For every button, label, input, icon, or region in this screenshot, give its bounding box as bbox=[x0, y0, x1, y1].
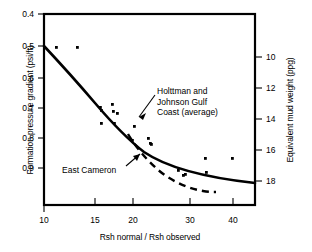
plot-frame bbox=[44, 14, 255, 205]
chart-figure: Formation pressure gradient (psi/ft) Equ… bbox=[0, 0, 312, 252]
data-point bbox=[99, 106, 102, 109]
annotation-holttman: Holttman and Johnson Gulf Coast (average… bbox=[157, 86, 218, 118]
x-tick-label: 15 bbox=[83, 215, 107, 225]
y-left-tick-label: 0.4 bbox=[10, 9, 34, 19]
y-left-tick-label: 0.8 bbox=[10, 133, 34, 143]
data-point bbox=[100, 122, 103, 125]
data-point bbox=[150, 143, 153, 146]
data-point bbox=[113, 122, 116, 125]
data-point bbox=[55, 46, 58, 49]
y-axis-right-title: Equivalent mud weight (ppg) bbox=[285, 20, 295, 200]
data-point bbox=[116, 112, 119, 115]
y-right-tick-label: 18 bbox=[266, 176, 290, 186]
data-point bbox=[205, 171, 208, 174]
y-right-tick-label: 16 bbox=[266, 145, 290, 155]
data-point bbox=[231, 157, 234, 160]
x-tick-label: 10 bbox=[32, 215, 56, 225]
y-left-tick-label: 0.5 bbox=[10, 41, 34, 51]
annotation-line: Holttman and bbox=[157, 86, 218, 97]
x-tick-label: 20 bbox=[121, 215, 145, 225]
annotation-east-cameron: East Cameron bbox=[62, 165, 116, 176]
y-left-tick-label: 0.9 bbox=[10, 163, 34, 173]
data-point bbox=[131, 139, 134, 142]
data-point bbox=[204, 157, 207, 160]
y-right-tick-label: 10 bbox=[266, 52, 290, 62]
data-point bbox=[76, 46, 79, 49]
y-right-tick-label: 14 bbox=[266, 114, 290, 124]
x-tick-label: 40 bbox=[221, 215, 245, 225]
data-point bbox=[177, 169, 180, 172]
annotation-line: East Cameron bbox=[62, 165, 116, 176]
annotation-line: Coast (average) bbox=[157, 107, 218, 118]
data-point bbox=[147, 137, 150, 140]
data-point bbox=[112, 110, 115, 113]
y-left-tick-label: 0.7 bbox=[10, 103, 34, 113]
annotation-line: Johnson Gulf bbox=[157, 97, 218, 108]
data-point bbox=[100, 109, 103, 112]
data-point bbox=[133, 125, 136, 128]
y-left-tick-label: 0.6 bbox=[10, 73, 34, 83]
y-right-tick-label: 12 bbox=[266, 83, 290, 93]
data-point bbox=[111, 103, 114, 106]
data-point bbox=[184, 173, 187, 176]
x-axis-title: Rsh normal / Rsh observed bbox=[44, 232, 256, 242]
x-tick-label: 30 bbox=[178, 215, 202, 225]
